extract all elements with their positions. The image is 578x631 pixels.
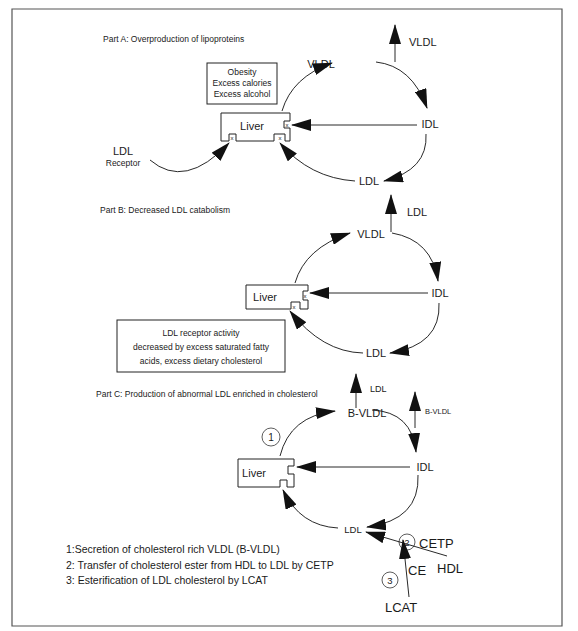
legend-item-1: 1:Secretion of cholesterol rich VLDL (B-… [66, 543, 280, 555]
part-b-export-ldl: LDL [407, 206, 427, 218]
part-b-node-vldl: VLDL [357, 228, 385, 240]
figure-border [12, 9, 562, 626]
receptor-label-receptor: Receptor [106, 158, 141, 168]
part-b-node-idl: IDL [431, 287, 448, 299]
part-c-node-bvldl: B-VLDL [348, 407, 387, 419]
arrow-idl-to-ldl [367, 475, 418, 527]
part-c-liver-label: Liver [242, 467, 266, 479]
part-c-node-ldl: LDL [344, 524, 361, 535]
note-line-2: decreased by excess saturated fatty [133, 342, 270, 352]
arrow-ldl-to-liver [283, 490, 338, 528]
input-cetp: CETP [419, 536, 454, 551]
receptor-mark: x [293, 304, 296, 310]
part-b-title: Part B: Decreased LDL catabolism [100, 205, 230, 215]
part-a-node-ldl: LDL [359, 175, 379, 187]
legend-item-3: 3: Esterification of LDL cholesterol by … [66, 574, 269, 586]
note-line-1: LDL receptor activity [162, 328, 240, 338]
part-c-title: Part C: Production of abnormal LDL enric… [96, 389, 318, 399]
input-hdl: HDL [437, 561, 463, 576]
input-ce: CE [408, 563, 426, 578]
arrow-ldl-receptor-uptake [150, 143, 229, 172]
part-a-node-idl: IDL [421, 118, 438, 130]
arrow-idl-to-ldl [384, 134, 426, 181]
part-a-export-vldl: VLDL [409, 36, 437, 48]
part-a-node-vldl: VLDL [307, 58, 335, 70]
receptor-label-ldl: LDL [113, 145, 133, 157]
arrow-liver-to-vldl [282, 63, 332, 111]
part-a-liver-label: Liver [240, 120, 264, 132]
arrow-ldl-to-liver [290, 311, 363, 353]
part-c-export-ldl: LDL [370, 384, 387, 394]
input-lcat: LCAT [385, 600, 417, 615]
note-line-3: acids, excess dietary cholesterol [140, 356, 262, 366]
part-a: Part A: Overproduction of lipoproteins O… [103, 25, 439, 187]
arrow-vldl-to-idl [392, 233, 438, 281]
part-b-node-ldl: LDL [366, 347, 386, 359]
step-marker-2-label: 2 [404, 537, 409, 548]
part-a-title: Part A: Overproduction of lipoproteins [103, 34, 244, 44]
part-c-node-idl: IDL [416, 461, 433, 473]
arrow-idl-to-ldl [390, 303, 439, 353]
arrow-vldl-to-idl [376, 62, 427, 108]
receptor-mark: x [304, 293, 307, 299]
part-b: Part B: Decreased LDL catabolism Liver x… [100, 195, 449, 372]
part-b-liver-label: Liver [253, 291, 277, 303]
cause-excess-alcohol: Excess alcohol [214, 89, 271, 99]
step-marker-1-label: 1 [268, 432, 274, 443]
receptor-mark: x [231, 135, 234, 141]
part-c-export-bvldl: B-VLDL [425, 407, 451, 416]
receptor-mark: x [286, 122, 289, 128]
step-marker-3-label: 3 [387, 575, 392, 586]
legend-item-2: 2: Transfer of cholesterol ester from HD… [66, 559, 334, 571]
arrow-liver-to-bvldl [280, 411, 335, 456]
arrow-ldl-to-liver [280, 143, 355, 181]
cause-obesity: Obesity [228, 67, 258, 77]
arrow-liver-to-vldl [295, 233, 350, 283]
receptor-mark: x [279, 135, 282, 141]
cause-excess-calories: Excess calories [212, 78, 271, 88]
part-c: Part C: Production of abnormal LDL enric… [66, 374, 463, 615]
lipoprotein-metabolism-diagram: Part A: Overproduction of lipoproteins O… [0, 0, 578, 631]
